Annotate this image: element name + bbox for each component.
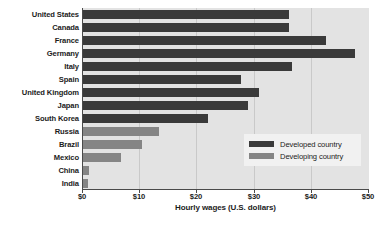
x-tick-label: $10: [119, 192, 159, 201]
category-label: Spain: [0, 73, 79, 86]
category-label: Mexico: [0, 151, 79, 164]
legend-swatch-developing-icon: [249, 153, 274, 159]
bar: [82, 23, 289, 32]
category-label: Italy: [0, 60, 79, 73]
legend-swatch-developed-icon: [249, 141, 274, 147]
bar: [82, 10, 289, 19]
x-tick-label: $30: [234, 192, 274, 201]
category-label: Germany: [0, 47, 79, 60]
legend-item-developing: Developing country: [249, 150, 356, 162]
legend: Developed country Developing country: [244, 134, 361, 166]
x-tick-label: $20: [176, 192, 216, 201]
bar: [82, 153, 121, 162]
category-label: United Kingdom: [0, 86, 79, 99]
bar-row: [82, 21, 369, 34]
legend-item-developed: Developed country: [249, 138, 356, 150]
legend-label-developing: Developing country: [280, 152, 343, 161]
bar: [82, 36, 326, 45]
bar: [82, 75, 241, 84]
category-label: United States: [0, 8, 79, 21]
x-tick-label: $40: [291, 192, 331, 201]
bar-row: [82, 73, 369, 86]
bar: [82, 166, 89, 175]
category-label: Brazil: [0, 138, 79, 151]
bar: [82, 127, 159, 136]
bar: [82, 140, 142, 149]
bar: [82, 62, 292, 71]
bar: [82, 49, 355, 58]
bar-row: [82, 112, 369, 125]
bar-row: [82, 47, 369, 60]
bar-chart: United StatesCanadaFranceGermanyItalySpa…: [0, 0, 384, 227]
bar-row: [82, 34, 369, 47]
bar-row: [82, 86, 369, 99]
bar: [82, 101, 248, 110]
x-tick-label: $0: [62, 192, 102, 201]
category-label: Canada: [0, 21, 79, 34]
category-label: India: [0, 177, 79, 190]
bar: [82, 114, 208, 123]
bar-row: [82, 8, 369, 21]
y-axis-line: [82, 8, 83, 190]
category-label: China: [0, 164, 79, 177]
legend-label-developed: Developed country: [280, 140, 342, 149]
x-axis-title: Hourly wages (U.S. dollars): [82, 203, 369, 212]
category-label: France: [0, 34, 79, 47]
category-label: South Korea: [0, 112, 79, 125]
x-axis-line: [82, 189, 369, 190]
category-label: Russia: [0, 125, 79, 138]
bar-row: [82, 99, 369, 112]
x-tick-label: $50: [348, 192, 384, 201]
bar-row: [82, 60, 369, 73]
bar: [82, 88, 259, 97]
category-label: Japan: [0, 99, 79, 112]
